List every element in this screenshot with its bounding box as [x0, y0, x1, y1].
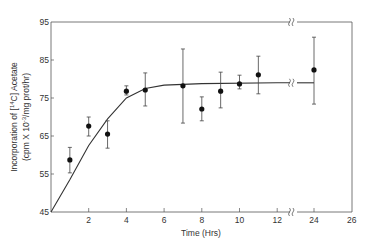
data-point	[256, 56, 261, 94]
svg-text:2: 2	[86, 215, 91, 225]
svg-text:26: 26	[347, 215, 357, 225]
data-point	[199, 97, 204, 121]
data-point	[124, 86, 129, 95]
y-axis-label-line1: Incorporation of [14C] Acetate	[9, 62, 19, 172]
data-point	[105, 121, 110, 148]
svg-text:8: 8	[199, 215, 204, 225]
y-axis-label-line2: (cpm X 10-3/mg prot/hr)	[21, 73, 31, 161]
data-point	[311, 37, 316, 104]
svg-text:75: 75	[40, 93, 50, 103]
svg-text:65: 65	[40, 131, 50, 141]
fit-curve	[51, 83, 314, 212]
data-point	[180, 49, 185, 123]
x-axis-label: Time (Hrs)	[181, 228, 221, 238]
axis-break-icon	[289, 18, 295, 216]
data-point	[86, 117, 91, 136]
svg-text:95: 95	[40, 17, 50, 27]
svg-text:6: 6	[162, 215, 167, 225]
svg-text:55: 55	[40, 169, 50, 179]
data-point	[143, 73, 148, 106]
svg-text:24: 24	[309, 215, 319, 225]
y-axis-ticks: 455565758595	[40, 17, 54, 217]
x-axis-ticks: 246810122426	[86, 208, 356, 225]
svg-text:45: 45	[40, 207, 50, 217]
svg-text:85: 85	[40, 55, 50, 65]
data-point	[237, 75, 242, 89]
chart: 455565758595 246810122426 Time (Hrs) Inc…	[0, 0, 369, 246]
svg-text:10: 10	[235, 215, 245, 225]
data-points	[67, 37, 316, 173]
svg-text:12: 12	[272, 215, 282, 225]
data-point	[67, 147, 72, 172]
data-point	[218, 72, 223, 108]
svg-text:4: 4	[124, 215, 129, 225]
